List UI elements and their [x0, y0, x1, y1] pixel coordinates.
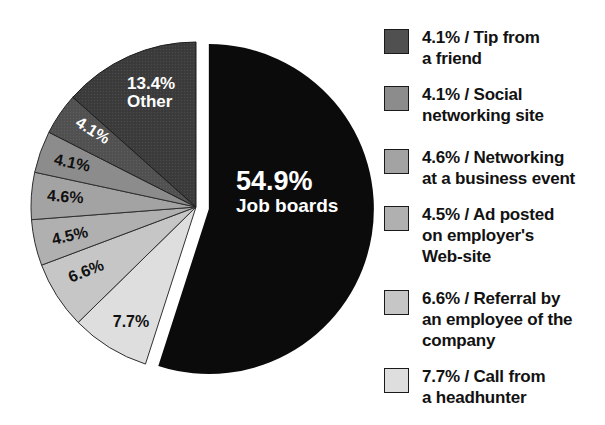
legend-item: 4.1% / Socialnetworking site	[384, 84, 544, 126]
legend-swatch	[384, 206, 409, 231]
legend-swatch	[384, 86, 409, 111]
legend-label: 7.7% / Call froma headhunter	[422, 366, 545, 408]
legend-swatch	[384, 368, 409, 393]
legend-swatch	[384, 290, 409, 315]
legend-label: 4.5% / Ad postedon employer'sWeb-site	[422, 204, 554, 267]
legend-swatch	[384, 149, 409, 174]
legend-label: 4.6% / Networkingat a business event	[422, 147, 575, 189]
slice-label-networking-event: 4.6%	[47, 187, 85, 207]
legend-item: 4.1% / Tip froma friend	[384, 27, 540, 69]
legend-label: 4.1% / Tip froma friend	[422, 27, 540, 69]
legend-label: 6.6% / Referral byan employee of thecomp…	[422, 288, 572, 351]
legend-item: 6.6% / Referral byan employee of thecomp…	[384, 288, 572, 351]
legend-item: 4.5% / Ad postedon employer'sWeb-site	[384, 204, 554, 267]
legend-item: 4.6% / Networkingat a business event	[384, 147, 575, 189]
slice-label-other: 13.4%Other	[127, 74, 175, 111]
legend-label: 4.1% / Socialnetworking site	[422, 84, 544, 126]
legend: 4.1% / Tip froma friend4.1% / Socialnetw…	[384, 0, 605, 425]
figure: 54.9%Job boards7.7%6.6%4.5%4.6%4.1%4.1%1…	[0, 0, 605, 425]
slice-label-headhunter: 7.7%	[113, 313, 149, 330]
legend-item: 7.7% / Call froma headhunter	[384, 366, 545, 408]
legend-swatch	[384, 29, 409, 54]
